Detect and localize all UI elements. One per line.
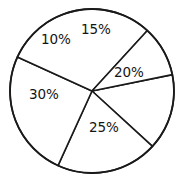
pie-slice-label-10: 10% [41, 33, 71, 47]
pie-slice-label-25: 25% [89, 121, 119, 135]
pie-slice-label-20: 20% [114, 66, 144, 80]
pie-slice-label-30: 30% [29, 88, 59, 102]
pie-slice-label-15: 15% [81, 23, 111, 37]
pie-chart: 15% 20% 25% 30% 10% [0, 0, 179, 188]
